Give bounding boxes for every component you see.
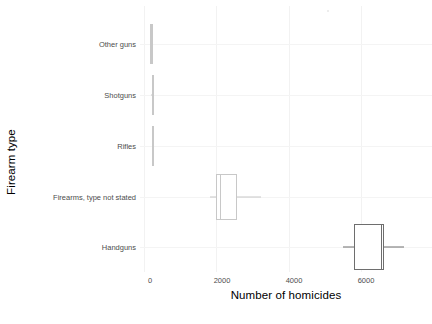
box-iqr[interactable] — [152, 126, 155, 166]
y-tick-label-handguns: Handguns — [16, 243, 136, 252]
gridline-y — [140, 44, 432, 45]
gridline-y — [140, 197, 432, 198]
y-tick-label-shotguns: Shotguns — [16, 91, 136, 100]
y-axis-tick-labels: Other guns Shotguns Rifles Firearms, typ… — [14, 0, 136, 324]
boxplot-figure: Firearm type Other guns Shotguns Rifles … — [0, 0, 432, 324]
x-tick-label-4000: 4000 — [286, 276, 303, 285]
x-axis-title: Number of homicides — [140, 289, 432, 301]
y-tick-label-rifles: Rifles — [16, 142, 136, 151]
median-line — [381, 224, 382, 270]
gridline-y — [140, 95, 432, 96]
box-iqr[interactable] — [152, 75, 155, 115]
whisker-lower — [343, 247, 354, 248]
gridline-x-2000 — [216, 6, 217, 272]
y-tick-label-other-guns: Other guns — [16, 40, 136, 49]
gridline-y — [140, 146, 432, 147]
x-tick-label-0: 0 — [148, 276, 152, 285]
median-line — [220, 174, 221, 220]
plot-panel — [140, 6, 432, 272]
whisker-upper — [384, 247, 404, 248]
box-iqr[interactable] — [150, 24, 153, 64]
y-tick-label-not-stated: Firearms, type not stated — [16, 193, 136, 202]
gridline-x-4000 — [289, 6, 290, 272]
x-tick-label-2000: 2000 — [214, 276, 231, 285]
whisker-upper — [237, 197, 260, 198]
gridline-x-0 — [144, 6, 145, 272]
stray-mark — [327, 10, 329, 12]
x-tick-label-6000: 6000 — [358, 276, 375, 285]
box-iqr[interactable] — [354, 224, 384, 270]
